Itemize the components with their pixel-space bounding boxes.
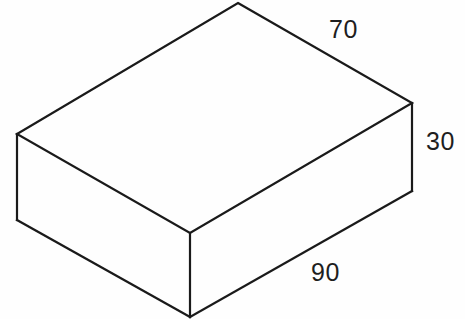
rectangular-prism-drawing [0,0,465,319]
height-dimension-label: 30 [426,129,455,154]
bottom-left-edge [17,220,190,317]
diagram-canvas: 70 30 90 [0,0,465,319]
bottom-right-edge [190,191,412,317]
width-dimension-label: 70 [329,17,358,42]
length-dimension-label: 90 [311,260,340,285]
